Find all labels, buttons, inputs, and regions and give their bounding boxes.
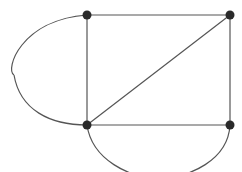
edge-c-b-diagonal [87, 15, 230, 125]
node-a [83, 11, 92, 20]
node-d [226, 121, 235, 130]
graph-diagram [0, 0, 242, 172]
node-c [83, 121, 92, 130]
node-b [226, 11, 235, 20]
edge-c-d-arc-bottom [87, 125, 230, 172]
edge-a-c-arc-left [12, 15, 87, 125]
